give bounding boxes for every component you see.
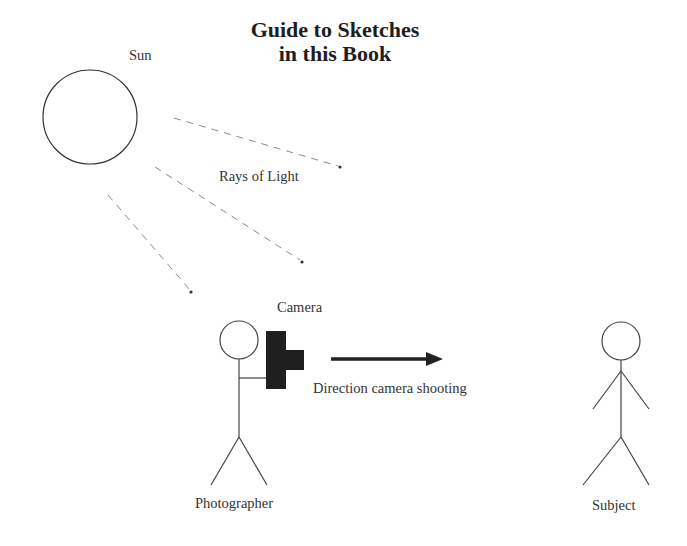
subject-left-leg: [583, 437, 621, 485]
subject-label: Subject: [592, 497, 636, 514]
rays-of-light-label: Rays of Light: [219, 168, 299, 185]
camera-label: Camera: [277, 299, 322, 316]
photographer-figure: [211, 321, 267, 485]
ray-3: [108, 195, 190, 290]
ray-1-tip: [338, 165, 341, 168]
direction-label: Direction camera shooting: [313, 380, 467, 397]
camera-icon: [266, 331, 304, 389]
subject-right-arm: [621, 371, 649, 409]
sketch-canvas: [0, 0, 687, 546]
ray-1: [174, 118, 338, 166]
subject-figure: [583, 322, 649, 485]
camera-lens: [285, 350, 304, 370]
sun-icon: [43, 70, 137, 164]
photographer-right-leg: [239, 437, 267, 485]
ray-3-tip: [189, 290, 192, 293]
photographer-left-leg: [211, 437, 239, 485]
rays-of-light: [108, 118, 338, 290]
sun-label: Sun: [129, 47, 152, 64]
photographer-head: [220, 321, 258, 359]
subject-left-arm: [593, 371, 621, 409]
camera-body: [266, 331, 286, 389]
subject-right-leg: [621, 437, 649, 485]
photographer-label: Photographer: [195, 495, 273, 512]
subject-head: [602, 322, 640, 360]
direction-arrow-icon: [331, 352, 443, 366]
ray-2-tip: [300, 260, 303, 263]
